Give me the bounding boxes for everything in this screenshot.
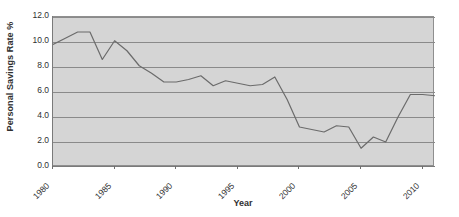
- y-axis-tick-label: 12.0: [17, 11, 49, 20]
- plot-svg: [53, 17, 435, 167]
- x-axis-tick-mark: [237, 166, 238, 169]
- y-axis-tick-label: 4.0: [17, 111, 49, 120]
- x-axis-tick-mark: [360, 166, 361, 169]
- x-axis-tick-mark: [114, 166, 115, 169]
- y-axis-tick-label: 8.0: [17, 61, 49, 70]
- plot-area: [52, 16, 434, 166]
- y-axis-line: [52, 16, 53, 167]
- x-axis-tick-mark: [422, 166, 423, 169]
- x-axis-tick-mark: [298, 166, 299, 169]
- y-axis-tick-label: 2.0: [17, 136, 49, 145]
- x-axis-line: [52, 166, 435, 167]
- y-axis-tick-label: 10.0: [17, 36, 49, 45]
- x-axis-tick-mark: [175, 166, 176, 169]
- y-axis-tick-label: 0.0: [17, 161, 49, 170]
- x-axis-title: Year: [52, 198, 434, 208]
- savings-rate-line-chart: Personal Savings Rate % 0.02.04.06.08.01…: [0, 0, 459, 217]
- gridlines: [53, 18, 435, 143]
- x-axis-tick-mark: [52, 166, 53, 169]
- y-axis-tick-label: 6.0: [17, 86, 49, 95]
- data-series-line: [53, 32, 435, 148]
